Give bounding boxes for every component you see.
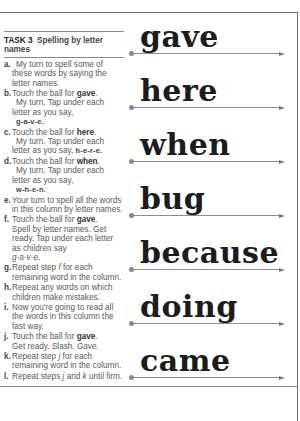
spelling: h-e-r-e.: [76, 146, 103, 155]
word-row-when[interactable]: when: [128, 122, 288, 162]
step-a: a. My turn to spell some of these words …: [4, 60, 124, 88]
arrow-right-icon: [279, 322, 285, 326]
word-row-bug[interactable]: bug: [128, 176, 288, 216]
step-j: j. Touch the ball for gave. Get ready. S…: [4, 332, 124, 351]
target-word: gave: [77, 215, 96, 224]
ball-icon[interactable]: [129, 159, 134, 164]
ball-icon[interactable]: [129, 213, 134, 218]
step-e: e. Your turn to spell all the words in t…: [4, 196, 124, 215]
ball-icon[interactable]: [129, 321, 134, 326]
word: because: [140, 238, 279, 268]
arrow-line: [132, 323, 282, 324]
arrow-line: [132, 107, 282, 108]
spelling: g-a-v-e.: [12, 253, 40, 262]
step-g: g. Repeat step f for each remaining word…: [4, 263, 124, 282]
arrow-right-icon: [279, 214, 285, 218]
word-row-doing[interactable]: doing: [128, 284, 288, 324]
word: gave: [140, 22, 219, 52]
word: when: [140, 130, 231, 160]
target-word: gave: [77, 332, 96, 341]
arrow-right-icon: [279, 376, 285, 380]
word-row-here[interactable]: here: [128, 68, 288, 108]
ball-icon[interactable]: [129, 375, 134, 380]
step-d: d. Touch the ball for when. My turn. Tap…: [4, 157, 124, 195]
ball-icon[interactable]: [129, 267, 134, 272]
arrow-right-icon: [279, 106, 285, 110]
step-i: i. Now you're going to read all the word…: [4, 303, 124, 331]
target-word: here: [77, 128, 94, 137]
word-row-gave[interactable]: gave: [128, 14, 288, 54]
arrow-line: [132, 269, 282, 270]
step-l: l. Repeat steps j and k until firm.: [4, 372, 124, 381]
word: here: [140, 76, 218, 106]
target-word: when: [77, 157, 98, 166]
arrow-line: [132, 53, 282, 54]
arrow-right-icon: [279, 52, 285, 56]
word-row-because[interactable]: because: [128, 230, 288, 270]
ball-icon[interactable]: [129, 51, 134, 56]
task-number: TASK 3: [4, 36, 33, 45]
spelling: w-h-e-n.: [12, 185, 46, 194]
right-border: [297, 12, 298, 421]
step-f: f. Touch the ball for gave. Spell by let…: [4, 215, 124, 262]
arrow-right-icon: [279, 160, 285, 164]
word: doing: [140, 292, 238, 322]
arrow-right-icon: [279, 268, 285, 272]
ball-icon[interactable]: [129, 105, 134, 110]
word: bug: [140, 184, 205, 214]
step-h: h. Repeat any words on which children ma…: [4, 283, 124, 302]
word-row-came[interactable]: came: [128, 338, 288, 378]
task-header: TASK 3 Spelling by letter names: [4, 31, 124, 58]
step-b: b. Touch the ball for gave. My turn. Tap…: [4, 89, 124, 127]
step-k: k. Repeat step j for each remaining word…: [4, 352, 124, 371]
spelling: g-a-v-e.: [12, 117, 44, 126]
arrow-line: [132, 215, 282, 216]
word-column: gave here when bug because doing came: [128, 0, 293, 421]
target-word: gave: [77, 89, 96, 98]
instructions-column: TASK 3 Spelling by letter names a. My tu…: [4, 31, 124, 382]
word: came: [140, 346, 231, 376]
step-c: c. Touch the ball for here. My turn. Tap…: [4, 128, 124, 156]
arrow-line: [132, 161, 282, 162]
arrow-line: [132, 377, 282, 378]
